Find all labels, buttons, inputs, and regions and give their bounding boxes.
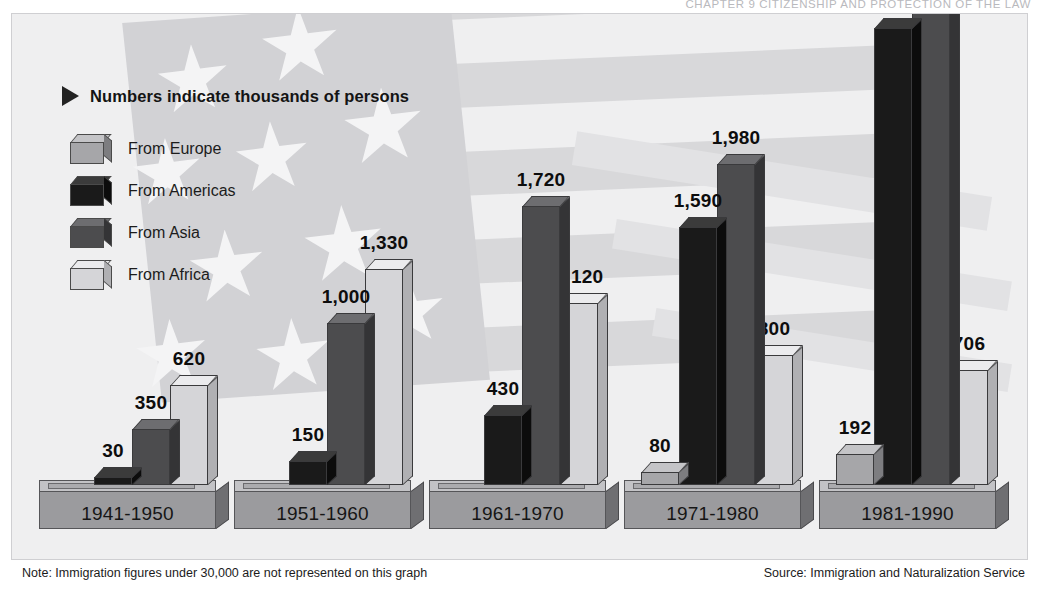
period-label: 1971-1980 <box>624 503 801 525</box>
chart-frame: Numbers indicate thousands of persons Fr… <box>11 13 1028 560</box>
legend-item-europe[interactable]: From Europe <box>62 128 409 170</box>
legend-item-asia[interactable]: From Asia <box>62 212 409 254</box>
bar-side-face <box>988 361 998 485</box>
bar-side-face <box>717 218 727 485</box>
bar-value-label: 620 <box>173 348 205 370</box>
pedestal-1981-1990: 1981-1990 <box>819 481 996 529</box>
chart-footer: Note: Immigration figures under 30,000 a… <box>22 566 1025 580</box>
triangle-right-icon <box>62 86 79 106</box>
bar-front-face <box>679 227 717 485</box>
legend-label-asia: From Asia <box>128 224 200 242</box>
bar-americas-1941-1950[interactable]: 30 <box>94 477 132 485</box>
bar-side-face <box>208 376 218 485</box>
immigration-bar-chart-page: CHAPTER 9 CITIZENSHIP AND PROTECTION OF … <box>0 0 1039 601</box>
chart-legend: Numbers indicate thousands of persons Fr… <box>62 86 409 296</box>
bar-value-label: 1,980 <box>712 127 761 149</box>
legend-swatch-americas <box>70 176 110 206</box>
legend-label-africa: From Africa <box>128 266 210 284</box>
legend-title-text: Numbers indicate thousands of persons <box>90 87 409 106</box>
bar-value-label: 80 <box>649 435 671 457</box>
pedestal-side <box>411 482 424 529</box>
period-label: 1981-1990 <box>819 503 996 525</box>
bar-front-face <box>874 28 912 485</box>
bar-side-face <box>522 406 532 485</box>
bar-side-face <box>365 314 375 485</box>
bar-front-face <box>836 454 874 485</box>
bar-front-face <box>289 461 327 485</box>
legend-swatch-africa <box>70 260 110 290</box>
bar-side-face <box>598 294 608 485</box>
bar-americas-1981-1990[interactable]: 2,817 <box>874 28 912 485</box>
pedestal-side <box>996 482 1009 529</box>
bar-europe-1971-1980[interactable]: 80 <box>641 472 679 485</box>
bar-value-label: 350 <box>135 392 167 414</box>
legend-label-americas: From Americas <box>128 182 236 200</box>
pedestal-1951-1960: 1951-1960 <box>234 481 411 529</box>
bar-side-face <box>793 346 803 485</box>
period-label: 1951-1960 <box>234 503 411 525</box>
pedestal-1961-1970: 1961-1970 <box>429 481 606 529</box>
pedestal-side <box>606 482 619 529</box>
bar-front-face <box>641 472 679 485</box>
period-label: 1941-1950 <box>39 503 216 525</box>
bar-side-face <box>560 197 570 485</box>
legend-label-europe: From Europe <box>128 140 221 158</box>
period-label: 1961-1970 <box>429 503 606 525</box>
legend-item-americas[interactable]: From Americas <box>62 170 409 212</box>
pedestal-1941-1950: 1941-1950 <box>39 481 216 529</box>
bar-value-label: 430 <box>487 378 519 400</box>
legend-swatch-europe <box>70 134 110 164</box>
bar-front-face <box>484 415 522 485</box>
running-head: CHAPTER 9 CITIZENSHIP AND PROTECTION OF … <box>685 0 1031 12</box>
footnote-note: Note: Immigration figures under 30,000 a… <box>22 566 427 580</box>
bar-value-label: 30 <box>102 440 124 462</box>
bar-value-label: 1,720 <box>517 169 566 191</box>
legend-title-row: Numbers indicate thousands of persons <box>62 86 409 106</box>
bar-value-label: 1,590 <box>674 190 723 212</box>
legend-swatch-asia <box>70 218 110 248</box>
bar-americas-1951-1960[interactable]: 150 <box>289 461 327 485</box>
bar-americas-1961-1970[interactable]: 430 <box>484 415 522 485</box>
bar-side-face <box>170 420 180 485</box>
bar-front-face <box>94 477 132 485</box>
bar-side-face <box>912 19 922 485</box>
bar-side-face <box>755 155 765 485</box>
bar-side-face <box>950 13 960 485</box>
pedestal-side <box>801 482 814 529</box>
pedestal-1971-1980: 1971-1980 <box>624 481 801 529</box>
bar-americas-1971-1980[interactable]: 1,590 <box>679 227 717 485</box>
pedestal-side <box>216 482 229 529</box>
footnote-source: Source: Immigration and Naturalization S… <box>764 566 1025 580</box>
bar-europe-1981-1990[interactable]: 192 <box>836 454 874 485</box>
bar-value-label: 192 <box>839 417 871 439</box>
legend-item-africa[interactable]: From Africa <box>62 254 409 296</box>
bar-value-label: 150 <box>292 424 324 446</box>
